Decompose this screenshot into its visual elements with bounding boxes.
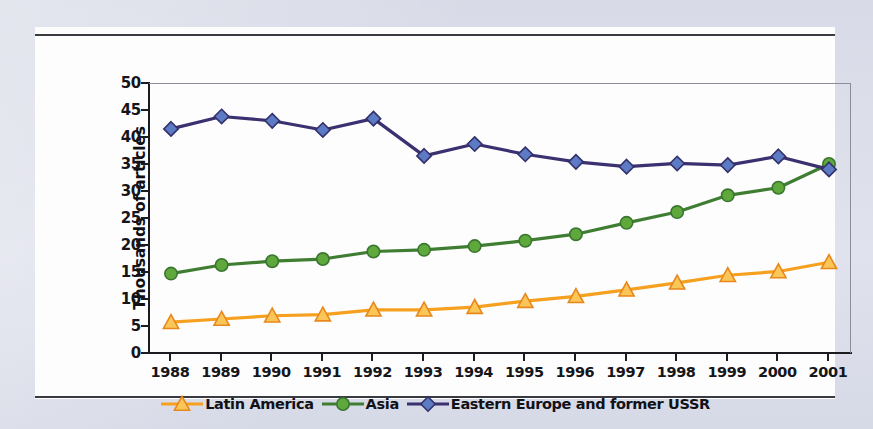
y-tick-mark: [141, 82, 148, 84]
data-point-marker: [570, 228, 582, 240]
x-tick-mark: [473, 354, 475, 361]
data-point-marker: [772, 182, 784, 194]
plot-frame-top: [149, 83, 851, 84]
data-point-marker: [722, 189, 734, 201]
x-tick-label: 1993: [404, 364, 443, 380]
data-point-marker: [214, 109, 228, 123]
x-tick-label: 1990: [252, 364, 291, 380]
chart-legend: Latin AmericaAsiaEastern Europe and form…: [35, 395, 835, 413]
legend-swatch-circle-icon: [321, 395, 365, 413]
data-point-marker: [215, 259, 227, 271]
data-point-marker: [468, 240, 480, 252]
card-top-rule: [35, 34, 835, 36]
legend-label: Latin America: [205, 396, 313, 412]
x-tick-mark: [625, 354, 627, 361]
legend-item[interactable]: Eastern Europe and former USSR: [406, 395, 710, 413]
data-point-marker: [336, 398, 348, 410]
y-axis-tick-labels: 05101520253035404550: [97, 83, 141, 353]
legend-item[interactable]: Latin America: [160, 395, 313, 413]
y-tick-label: 50: [101, 74, 141, 92]
legend-label: Eastern Europe and former USSR: [451, 396, 710, 412]
legend-label: Asia: [366, 396, 399, 412]
data-point-marker: [670, 156, 684, 170]
data-point-marker: [519, 234, 531, 246]
y-tick-mark: [141, 352, 148, 354]
data-point-marker: [467, 137, 481, 151]
x-tick-mark: [422, 354, 424, 361]
data-point-marker: [569, 155, 583, 169]
y-tick-label: 10: [101, 290, 141, 308]
series-eastern-europe-and-former-ussr: [164, 109, 836, 176]
data-point-marker: [619, 160, 633, 174]
x-tick-mark: [270, 354, 272, 361]
data-point-marker: [316, 123, 330, 137]
x-tick-label: 1999: [707, 364, 746, 380]
chart-card: Thousands of articles 051015202530354045…: [35, 27, 835, 399]
data-point-marker: [418, 244, 430, 256]
data-point-marker: [164, 122, 178, 136]
y-tick-mark: [141, 109, 148, 111]
series-asia: [165, 158, 835, 280]
x-tick-label: 1995: [505, 364, 544, 380]
y-tick-mark: [141, 271, 148, 273]
x-tick-label: 1992: [353, 364, 392, 380]
x-tick-mark: [827, 354, 829, 361]
data-point-marker: [367, 245, 379, 257]
y-tick-label: 35: [101, 155, 141, 173]
y-tick-mark: [141, 190, 148, 192]
x-tick-label: 1996: [556, 364, 595, 380]
x-tick-mark: [776, 354, 778, 361]
x-axis-tick-labels: 1988198919901991199219931994199519961997…: [148, 364, 852, 386]
data-point-marker: [421, 397, 435, 411]
data-point-marker: [266, 255, 278, 267]
x-tick-label: 2001: [809, 364, 848, 380]
x-tick-mark: [675, 354, 677, 361]
y-tick-label: 40: [101, 128, 141, 146]
y-tick-label: 0: [101, 344, 141, 362]
x-tick-label: 2000: [758, 364, 797, 380]
x-tick-label: 1994: [454, 364, 493, 380]
data-point-marker: [620, 217, 632, 229]
plot-frame-right: [850, 83, 851, 353]
data-point-marker: [671, 206, 683, 218]
x-tick-mark: [523, 354, 525, 361]
line-chart-svg: [149, 83, 851, 353]
y-tick-label: 20: [101, 236, 141, 254]
data-point-marker: [265, 114, 279, 128]
x-tick-mark: [169, 354, 171, 361]
y-tick-label: 30: [101, 182, 141, 200]
y-tick-mark: [141, 163, 148, 165]
x-tick-label: 1989: [201, 364, 240, 380]
x-tick-mark: [726, 354, 728, 361]
x-tick-mark: [321, 354, 323, 361]
data-point-marker: [821, 255, 836, 269]
x-tick-mark: [574, 354, 576, 361]
series-latin-america: [163, 255, 836, 329]
y-tick-mark: [141, 298, 148, 300]
x-tick-mark: [220, 354, 222, 361]
y-tick-mark: [141, 325, 148, 327]
y-tick-label: 45: [101, 101, 141, 119]
legend-swatch-diamond-icon: [406, 395, 450, 413]
x-axis-ticks: [148, 354, 852, 362]
legend-item[interactable]: Asia: [321, 395, 399, 413]
x-tick-label: 1997: [606, 364, 645, 380]
y-tick-mark: [141, 136, 148, 138]
x-tick-label: 1988: [151, 364, 190, 380]
data-point-marker: [317, 253, 329, 265]
y-tick-mark: [141, 244, 148, 246]
x-tick-label: 1991: [302, 364, 341, 380]
data-point-marker: [518, 147, 532, 161]
legend-swatch-triangle-icon: [160, 395, 204, 413]
y-tick-mark: [141, 217, 148, 219]
x-tick-label: 1998: [657, 364, 696, 380]
data-point-marker: [771, 149, 785, 163]
y-tick-label: 5: [101, 317, 141, 335]
y-tick-label: 15: [101, 263, 141, 281]
x-tick-mark: [371, 354, 373, 361]
data-point-marker: [165, 267, 177, 279]
plot-area: [149, 83, 851, 353]
data-point-marker: [721, 158, 735, 172]
y-tick-label: 25: [101, 209, 141, 227]
